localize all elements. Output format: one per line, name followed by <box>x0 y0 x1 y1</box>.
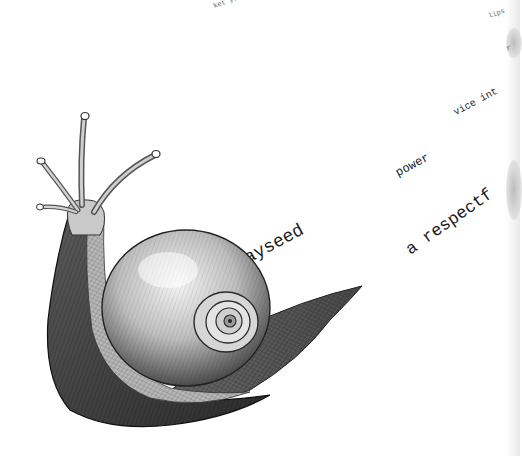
snail-tentacles <box>37 113 161 213</box>
snail-shell <box>102 230 270 386</box>
